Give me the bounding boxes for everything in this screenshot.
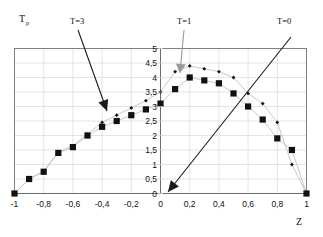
x-tick-label: -0,6 xyxy=(66,199,81,209)
y-tick-label: 4 xyxy=(152,73,157,83)
y-tick-label: 0,5 xyxy=(145,174,157,184)
y-tick-label: 0 xyxy=(152,189,157,199)
annotation-label-t0: T=0 xyxy=(277,16,291,26)
data-point-square xyxy=(128,112,134,118)
data-point-square xyxy=(172,86,178,92)
y-tick-label: 3 xyxy=(152,102,157,112)
x-tick-label: -0,2 xyxy=(124,199,139,209)
y-tick-label: 5 xyxy=(152,44,157,54)
data-point-square xyxy=(245,103,251,109)
y-tick-label: 2,5 xyxy=(145,116,157,126)
chart-svg: 00,511,522,533,544,55 -1-0,8-0,6-0,4-0,2… xyxy=(0,0,323,237)
x-tick-label: 0,2 xyxy=(184,199,196,209)
data-point-square xyxy=(99,124,105,130)
annotation-label-t3: T=3 xyxy=(70,16,84,26)
y-tick-label: 3,5 xyxy=(145,87,157,97)
x-tick-label: 0 xyxy=(158,199,163,209)
y-tick-label: 2 xyxy=(152,131,157,141)
annotation-label-t1: T=1 xyxy=(177,16,191,26)
x-tick-label: 0,4 xyxy=(213,199,225,209)
data-point-square xyxy=(289,147,295,153)
data-point-square xyxy=(230,90,236,96)
data-point-square xyxy=(216,80,222,86)
data-point-square xyxy=(201,77,207,83)
x-tick-label: 0,8 xyxy=(271,199,283,209)
data-point-square xyxy=(157,101,163,107)
y-axis-title-subscript: p xyxy=(26,19,29,26)
y-tick-label: 1,5 xyxy=(145,145,157,155)
y-axis-title: T xyxy=(19,13,25,24)
y-tick-label: 1 xyxy=(152,160,157,170)
x-axis-title: Z xyxy=(296,216,302,227)
x-tick-label: 0,6 xyxy=(242,199,254,209)
x-tick-label: -0,8 xyxy=(36,199,51,209)
x-tick-label: -0,4 xyxy=(95,199,110,209)
chart-container: 00,511,522,533,544,55 -1-0,8-0,6-0,4-0,2… xyxy=(0,0,323,237)
y-tick-label: 4,5 xyxy=(145,58,157,68)
data-point-square xyxy=(187,74,193,80)
data-point-square xyxy=(274,135,280,141)
x-tick-label: -1 xyxy=(11,199,19,209)
data-point-square xyxy=(260,116,266,122)
data-point-square xyxy=(114,118,120,124)
x-tick-label: 1 xyxy=(304,199,309,209)
data-point-square xyxy=(143,106,149,112)
